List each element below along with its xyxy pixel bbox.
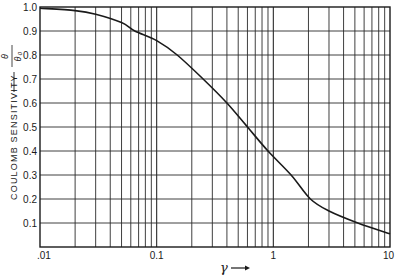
y-axis-tick-labels: 0.10.20.30.40.50.60.70.80.91.0 [23, 2, 37, 229]
y-axis-label-numerator: θ [0, 53, 10, 59]
y-tick-label: 0.5 [23, 122, 37, 133]
y-tick-label: 0.9 [23, 26, 37, 37]
y-axis-label-text: COULOMB SENSITIVITY [9, 74, 19, 200]
y-tick-label: 0.4 [23, 146, 37, 157]
chart: 0.10.20.30.40.50.60.70.80.91.0 .010.1110… [0, 0, 397, 275]
grid-lines [40, 7, 390, 247]
x-tick-label: 0.1 [150, 250, 164, 261]
x-axis-label: γ [220, 260, 250, 275]
x-axis-arrow-head-icon [245, 266, 250, 271]
y-tick-label: 0.8 [23, 50, 37, 61]
x-tick-label: 10 [383, 250, 395, 261]
x-axis-tick-labels: .010.1110 [37, 250, 394, 261]
y-tick-label: 0.6 [23, 98, 37, 109]
y-tick-label: 0.3 [23, 170, 37, 181]
y-tick-label: 1.0 [23, 2, 37, 13]
x-axis-label-text: γ [220, 260, 228, 275]
x-tick-label: .01 [37, 250, 51, 261]
y-tick-label: 0.1 [23, 218, 37, 229]
y-tick-label: 0.7 [23, 74, 37, 85]
x-tick-label: 1 [271, 250, 277, 261]
y-axis-label-denominator: θ₀ [13, 50, 23, 61]
sensitivity-curve [40, 8, 390, 234]
y-tick-label: 0.2 [23, 194, 37, 205]
y-axis-label: COULOMB SENSITIVITY θ θ₀ [0, 45, 23, 200]
